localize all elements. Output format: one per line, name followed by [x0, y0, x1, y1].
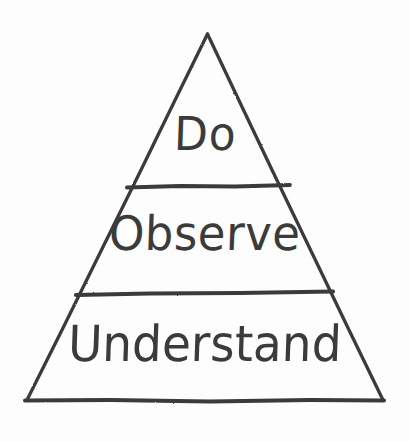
pyramid-tier-label-understand-text: Understand [67, 319, 342, 369]
pyramid-base-line [25, 400, 384, 402]
pyramid-tier-label-do-text: Do [173, 111, 237, 158]
pyramid-tier-label-understand: Understand [0, 320, 410, 367]
pyramid-tier-label-observe-text: Observe [108, 210, 301, 258]
pyramid-tier-label-do: Do [0, 112, 410, 156]
pyramid-tier-label-observe: Observe [0, 211, 410, 256]
pyramid-diagram: Do Observe Understand [0, 0, 410, 442]
